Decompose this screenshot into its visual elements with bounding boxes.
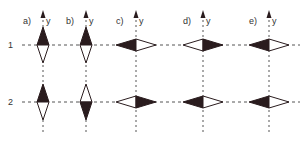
y-axis-arrow-icon: [41, 10, 46, 18]
diamond-bottom-half: [80, 45, 92, 63]
diamond-top-half: [80, 84, 92, 102]
column-label: e): [249, 16, 257, 26]
y-axis-label: y: [206, 16, 211, 26]
column-label: b): [66, 16, 74, 26]
diagram-canvas: 12a)yb)yc)yd)ye)y: [0, 0, 308, 147]
diamond-left-half: [183, 96, 203, 108]
diamond-right-half: [136, 96, 156, 108]
diamond-top-half: [80, 27, 92, 45]
diamond-right-half: [203, 96, 223, 108]
y-axis-arrow-icon: [267, 10, 272, 18]
diagram-svg: 12a)yb)yc)yd)ye)y: [0, 0, 308, 147]
diamond-bottom-half: [37, 45, 49, 63]
column-label: d): [183, 16, 191, 26]
column-label: a): [23, 16, 31, 26]
row-label-1: 1: [8, 40, 13, 50]
diamond-left-half: [116, 39, 136, 51]
y-axis-arrow-icon: [84, 10, 89, 18]
column-label: c): [116, 16, 124, 26]
y-axis-label: y: [272, 16, 277, 26]
diamond-left-half: [249, 39, 269, 51]
diamond-left-half: [116, 96, 136, 108]
diamond-bottom-half: [80, 102, 92, 120]
diamond-left-half: [183, 39, 203, 51]
diamond-right-half: [136, 39, 156, 51]
y-axis-label: y: [89, 16, 94, 26]
y-axis-arrow-icon: [134, 10, 139, 18]
diamond-right-half: [203, 39, 223, 51]
y-axis-label: y: [46, 16, 51, 26]
diamond-left-half: [249, 96, 269, 108]
row-label-2: 2: [8, 97, 13, 107]
y-axis-arrow-icon: [201, 10, 206, 18]
diamond-bottom-half: [37, 102, 49, 120]
diamond-right-half: [269, 39, 289, 51]
diamond-top-half: [37, 84, 49, 102]
diamond-right-half: [269, 96, 289, 108]
diamond-top-half: [37, 27, 49, 45]
y-axis-label: y: [139, 16, 144, 26]
